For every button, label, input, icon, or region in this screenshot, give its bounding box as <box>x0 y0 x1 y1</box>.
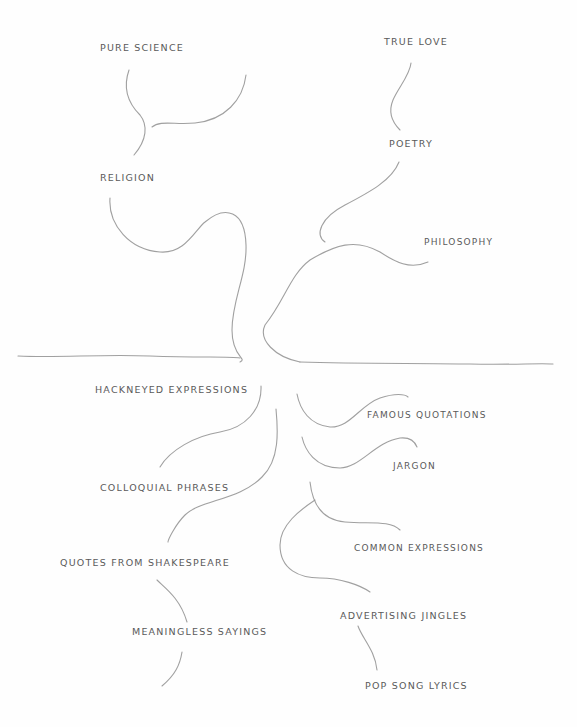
label-meaningless-sayings: MEANINGLESS SAYINGS <box>132 626 267 637</box>
label-religion: RELIGION <box>100 172 155 183</box>
line-common-expressions <box>310 482 400 530</box>
line-religion <box>110 198 246 362</box>
line-pure-science-right <box>152 75 246 127</box>
label-common-expressions: COMMON EXPRESSIONS <box>354 543 484 553</box>
line-stem-shakespeare <box>168 409 277 542</box>
label-philosophy: PHILOSOPHY <box>424 237 493 247</box>
waterline <box>18 355 240 358</box>
waterline-right <box>300 362 553 364</box>
label-colloquial-phrases: COLLOQUIAL PHRASES <box>100 482 229 493</box>
line-poetry-down <box>320 162 399 242</box>
label-pure-science: PURE SCIENCE <box>100 42 184 53</box>
label-pop-song-lyrics: POP SONG LYRICS <box>365 680 468 691</box>
label-hackneyed-expressions: HACKNEYED EXPRESSIONS <box>95 384 248 395</box>
line-philosophy <box>263 244 428 362</box>
connector-lines <box>0 0 577 727</box>
line-advertising-popsong <box>358 626 377 670</box>
line-hackneyed-colloquial <box>160 386 261 467</box>
line-meaningless-down <box>162 652 182 686</box>
line-pure-science-left <box>126 70 145 155</box>
line-true-love-poetry <box>391 63 411 130</box>
label-famous-quotations: FAMOUS QUOTATIONS <box>367 410 487 420</box>
label-jargon: JARGON <box>393 461 436 471</box>
label-advertising-jingles: ADVERTISING JINGLES <box>340 610 467 621</box>
label-quotes-from-shakespeare: QUOTES FROM SHAKESPEARE <box>60 557 230 568</box>
label-poetry: POETRY <box>389 138 433 149</box>
hand-drawn-diagram: PURE SCIENCE TRUE LOVE POETRY RELIGION P… <box>0 0 577 727</box>
label-true-love: TRUE LOVE <box>384 36 448 47</box>
line-shakespeare-meaningless <box>157 580 187 622</box>
